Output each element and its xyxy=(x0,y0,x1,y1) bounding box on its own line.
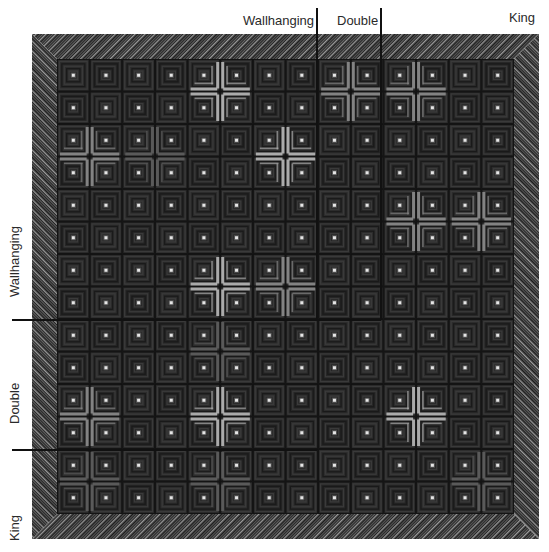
log-cabin-block xyxy=(482,352,514,384)
log-cabin-block xyxy=(286,60,318,92)
log-cabin-block xyxy=(384,255,416,287)
log-cabin-block xyxy=(58,255,90,287)
log-cabin-block xyxy=(351,352,383,384)
log-cabin-block xyxy=(221,125,253,157)
log-cabin-block xyxy=(286,125,318,157)
log-cabin-block xyxy=(384,450,416,482)
log-cabin-block xyxy=(155,287,187,319)
log-cabin-block xyxy=(253,450,285,482)
log-cabin-block xyxy=(417,157,449,189)
log-cabin-block xyxy=(253,125,285,157)
log-cabin-block xyxy=(482,287,514,319)
log-cabin-block xyxy=(253,222,285,254)
log-cabin-block xyxy=(58,60,90,92)
log-cabin-block xyxy=(58,417,90,449)
log-cabin-block xyxy=(188,255,220,287)
log-cabin-block xyxy=(188,450,220,482)
log-cabin-block xyxy=(319,385,351,417)
log-cabin-block xyxy=(123,222,155,254)
log-cabin-block xyxy=(188,125,220,157)
log-cabin-block xyxy=(319,125,351,157)
log-cabin-block xyxy=(417,92,449,124)
top-label-double: Double xyxy=(337,14,378,27)
log-cabin-block xyxy=(90,352,122,384)
log-cabin-block xyxy=(221,287,253,319)
log-cabin-block xyxy=(384,320,416,352)
marker-line-horizontal-double xyxy=(12,449,317,451)
log-cabin-block xyxy=(351,190,383,222)
log-cabin-block xyxy=(286,385,318,417)
log-cabin-block xyxy=(90,157,122,189)
log-cabin-block xyxy=(123,255,155,287)
log-cabin-block xyxy=(286,287,318,319)
log-cabin-block xyxy=(90,320,122,352)
log-cabin-block xyxy=(155,255,187,287)
log-cabin-block xyxy=(384,60,416,92)
log-cabin-block xyxy=(351,157,383,189)
log-cabin-block xyxy=(253,255,285,287)
log-cabin-block xyxy=(58,92,90,124)
log-cabin-block xyxy=(253,320,285,352)
log-cabin-block xyxy=(384,157,416,189)
log-cabin-block xyxy=(449,417,481,449)
quilt-illustration xyxy=(0,0,549,552)
log-cabin-block xyxy=(319,287,351,319)
log-cabin-block xyxy=(253,92,285,124)
log-cabin-block xyxy=(253,287,285,319)
log-cabin-block xyxy=(417,450,449,482)
log-cabin-block xyxy=(417,352,449,384)
log-cabin-block xyxy=(155,60,187,92)
log-cabin-block xyxy=(482,417,514,449)
log-cabin-block xyxy=(449,385,481,417)
log-cabin-block xyxy=(188,320,220,352)
log-cabin-block xyxy=(58,450,90,482)
log-cabin-block xyxy=(155,320,187,352)
log-cabin-block xyxy=(286,482,318,514)
log-cabin-block xyxy=(123,482,155,514)
log-cabin-block xyxy=(319,60,351,92)
log-cabin-block xyxy=(221,222,253,254)
log-cabin-block xyxy=(449,482,481,514)
log-cabin-block xyxy=(155,190,187,222)
log-cabin-block xyxy=(123,385,155,417)
log-cabin-block xyxy=(188,385,220,417)
log-cabin-block xyxy=(58,385,90,417)
log-cabin-block xyxy=(90,92,122,124)
log-cabin-block xyxy=(449,190,481,222)
log-cabin-block xyxy=(319,92,351,124)
log-cabin-block xyxy=(188,482,220,514)
log-cabin-block xyxy=(351,125,383,157)
log-cabin-block xyxy=(482,222,514,254)
log-cabin-block xyxy=(351,320,383,352)
marker-line-vertical-wallhanging xyxy=(316,8,318,320)
log-cabin-block xyxy=(417,222,449,254)
log-cabin-block xyxy=(319,222,351,254)
log-cabin-block xyxy=(188,287,220,319)
log-cabin-block xyxy=(482,320,514,352)
log-cabin-block xyxy=(123,157,155,189)
log-cabin-block xyxy=(417,482,449,514)
log-cabin-block xyxy=(417,287,449,319)
log-cabin-block xyxy=(123,92,155,124)
log-cabin-block xyxy=(417,60,449,92)
log-cabin-block xyxy=(351,385,383,417)
log-cabin-block xyxy=(123,190,155,222)
log-cabin-block xyxy=(90,482,122,514)
log-cabin-block xyxy=(155,222,187,254)
log-cabin-block xyxy=(482,385,514,417)
log-cabin-block xyxy=(384,482,416,514)
log-cabin-block xyxy=(319,157,351,189)
log-cabin-block xyxy=(221,450,253,482)
log-cabin-block xyxy=(155,385,187,417)
log-cabin-block xyxy=(351,450,383,482)
log-cabin-block xyxy=(188,190,220,222)
marker-line-vertical-double xyxy=(380,8,382,320)
log-cabin-block xyxy=(123,60,155,92)
log-cabin-block xyxy=(58,222,90,254)
log-cabin-block xyxy=(188,352,220,384)
log-cabin-block xyxy=(221,157,253,189)
log-cabin-block xyxy=(286,417,318,449)
log-cabin-block xyxy=(221,320,253,352)
log-cabin-block xyxy=(155,125,187,157)
log-cabin-block xyxy=(286,450,318,482)
